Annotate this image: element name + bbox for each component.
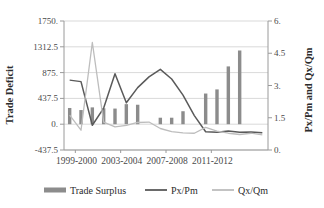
y-tick-label: 875. — [42, 68, 58, 78]
y-tick-label: 1312.5 — [33, 42, 58, 52]
bar — [159, 118, 162, 124]
legend-label: Trade Surplus — [70, 185, 126, 196]
right-axis-ticks: 6.4.53.1.50. — [268, 16, 286, 155]
bar — [170, 118, 173, 124]
bar — [215, 89, 218, 124]
x-tick-label: 1999-2000 — [56, 156, 97, 166]
y-tick-label: 1750. — [38, 16, 58, 26]
y2-tick-label: 3. — [274, 81, 281, 91]
legend-item: Trade Surplus — [44, 185, 126, 196]
chart-canvas: 1750.1312.5875.437.50.-437.5 6.4.53.1.50… — [0, 0, 324, 208]
bar — [136, 105, 139, 124]
bar — [204, 94, 207, 125]
bar — [238, 50, 241, 124]
y2-tick-label: 1.5 — [274, 113, 286, 123]
y2-tick-label: 4.5 — [274, 48, 286, 58]
x-tick-label: 2011-2012 — [192, 156, 233, 166]
chart-container: 1750.1312.5875.437.50.-437.5 6.4.53.1.50… — [0, 0, 324, 208]
legend-item: Px/Pm — [145, 185, 198, 196]
legend-label: Px/Pm — [171, 185, 198, 196]
y-tick-label: -437.5 — [35, 145, 59, 155]
legend-item: Qx/Qm — [212, 185, 268, 196]
line-series-px-pm — [70, 69, 263, 132]
y-tick-label: 437.5 — [38, 93, 59, 103]
bar-series-trade-surplus — [68, 50, 241, 124]
legend-label: Qx/Qm — [238, 185, 268, 196]
line-series-qx-qm — [70, 43, 263, 135]
x-axis-ticks: 1999-20002003-20042007-20082011-2012 — [56, 150, 233, 166]
left-axis-title: Trade Deficit — [4, 65, 15, 124]
x-tick-label: 2007-2008 — [147, 156, 188, 166]
chart-legend: Trade SurplusPx/PmQx/Qm — [44, 185, 268, 196]
y-tick-label: 0. — [51, 119, 58, 129]
y2-tick-label: 6. — [274, 16, 281, 26]
bar — [113, 109, 116, 125]
legend-swatch-bar — [44, 188, 66, 193]
bar — [227, 66, 230, 124]
bar — [125, 104, 128, 124]
bar — [181, 111, 184, 124]
left-axis-ticks: 1750.1312.5875.437.50.-437.5 — [33, 16, 64, 155]
right-axis-title: Px/Pm and Qx/Qm — [303, 47, 314, 132]
y2-tick-label: 0. — [274, 145, 281, 155]
x-tick-label: 2003-2004 — [101, 156, 142, 166]
